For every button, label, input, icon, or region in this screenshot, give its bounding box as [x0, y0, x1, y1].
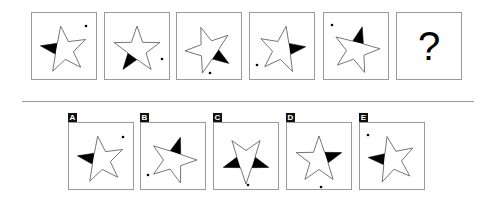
option-c[interactable] — [213, 122, 279, 190]
option-label-d: D — [286, 113, 295, 122]
star-icon — [32, 13, 96, 79]
sequence-cell-1 — [31, 12, 97, 80]
option-label-a: A — [68, 113, 77, 122]
star-icon — [360, 123, 424, 189]
sequence-cell-5 — [323, 12, 389, 80]
question-mark: ? — [397, 13, 461, 79]
star-icon — [250, 13, 314, 79]
option-d[interactable] — [286, 122, 352, 190]
option-e[interactable] — [359, 122, 425, 190]
star-icon — [105, 13, 169, 79]
divider — [22, 101, 474, 102]
star-icon — [287, 123, 351, 189]
sequence-cell-3 — [176, 12, 242, 80]
unknown-cell: ? — [396, 12, 462, 80]
option-a[interactable] — [68, 122, 134, 190]
sequence-cell-2 — [104, 12, 170, 80]
star-icon — [324, 13, 388, 79]
option-label-c: C — [213, 113, 222, 122]
option-label-b: B — [140, 113, 149, 122]
option-label-e: E — [359, 113, 368, 122]
option-b[interactable] — [140, 122, 206, 190]
star-icon — [141, 123, 205, 189]
sequence-cell-4 — [249, 12, 315, 80]
star-icon — [214, 123, 278, 189]
star-icon — [177, 13, 241, 79]
star-icon — [69, 123, 133, 189]
